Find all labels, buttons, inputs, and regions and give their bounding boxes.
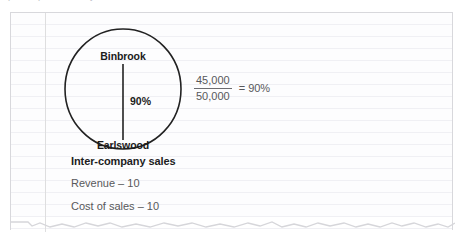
node-label-earlswood: Earlswood: [62, 139, 184, 151]
text-remnant: y: [90, 0, 95, 1]
notes-heading: Inter-company sales: [71, 155, 401, 167]
note-line: Cost of sales – 10: [71, 200, 401, 212]
fraction-stack: 45,000 50,000: [194, 74, 232, 103]
fraction-result: = 90%: [239, 82, 271, 94]
fraction-numerator: 45,000: [194, 74, 232, 88]
fraction-denominator: 50,000: [194, 89, 232, 103]
text-remnant: p: [8, 0, 13, 1]
notes-block: Inter-company sales Revenue – 10 Cost of…: [71, 155, 401, 223]
note-line: Revenue – 10: [71, 177, 401, 189]
notepad-sheet: Binbrook Earlswood 90% 45,000 50,000 = 9…: [10, 12, 455, 234]
text-remnant: p: [38, 0, 43, 1]
diagram-content: Binbrook Earlswood 90% 45,000 50,000 = 9…: [10, 12, 455, 234]
ownership-percentage-label: 90%: [130, 95, 151, 107]
node-label-binbrook: Binbrook: [62, 50, 184, 62]
circle-graphic: [62, 26, 184, 152]
ownership-circle-diagram: Binbrook Earlswood 90%: [62, 26, 184, 152]
cut-off-text-remnants: p p y: [0, 0, 465, 11]
calculation-fraction: 45,000 50,000 = 90%: [194, 74, 270, 103]
